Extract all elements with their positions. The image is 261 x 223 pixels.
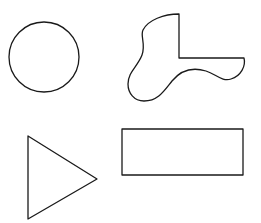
circle-shape <box>9 22 79 92</box>
irregular-blob-shape <box>128 14 244 101</box>
shapes-diagram <box>0 0 261 223</box>
rectangle-shape <box>122 129 243 175</box>
triangle-shape <box>28 136 97 219</box>
